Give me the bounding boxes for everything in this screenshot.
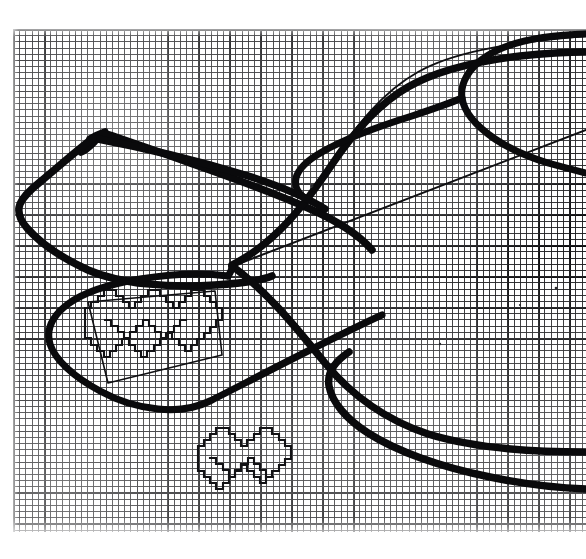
ink-speck bbox=[519, 304, 521, 306]
ink-speck bbox=[439, 343, 441, 345]
scan-surface bbox=[0, 0, 586, 559]
scanned-chart-page bbox=[0, 0, 586, 559]
cuff-band-join bbox=[228, 266, 232, 276]
ink-speck bbox=[555, 287, 558, 290]
marker-outline-layer bbox=[0, 0, 586, 559]
ink-speck bbox=[311, 185, 314, 188]
mitten-finger-lower bbox=[329, 352, 586, 489]
